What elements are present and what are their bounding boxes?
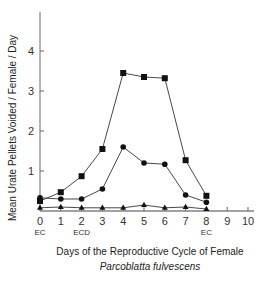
x-tick-label: 0 [37,215,43,227]
data-point-square [141,74,147,80]
x-axis-title: Days of the Reproductive Cycle of Female [56,246,244,257]
series-line-circles [40,147,206,202]
data-point-triangle [79,205,85,210]
data-point-circle [100,186,106,192]
data-point-circle [141,160,147,166]
y-axis-title: Mean Urate Pellets Voided / Female / Day [7,35,18,221]
data-point-square [162,75,168,81]
data-point-circle [162,161,168,167]
data-point-circle [204,199,210,205]
y-tick-label: 4 [28,45,34,57]
x-tick-label: 9 [224,215,230,227]
data-point-triangle [37,205,43,210]
data-point-triangle [58,204,64,209]
x-tick-label: 8 [203,215,209,227]
x-annotation: EC [34,228,45,237]
data-point-circle [183,192,189,198]
x-tick-label: 1 [58,215,64,227]
data-point-square [58,189,64,195]
y-tick-label: 2 [28,125,34,137]
data-point-square [183,157,189,163]
x-tick-label: 3 [99,215,105,227]
chart: 1234012345678910ECECDEC Mean Urate Pelle… [0,0,274,281]
x-tick-label: 5 [141,215,147,227]
data-point-circle [79,196,85,202]
series-layer [37,70,209,211]
y-tick-label: 3 [28,85,34,97]
x-tick-label: 10 [242,215,254,227]
x-annotation: ECD [73,228,90,237]
data-point-square [99,146,105,152]
x-tick-label: 6 [162,215,168,227]
data-point-triangle [99,205,105,210]
data-point-square [79,173,85,179]
data-point-circle [120,144,126,150]
data-point-square [120,70,126,76]
x-tick-label: 2 [79,215,85,227]
data-point-circle [37,195,43,201]
data-point-triangle [141,202,147,207]
y-tick-label: 1 [28,165,34,177]
series-line-squares [40,73,206,201]
x-tick-label: 7 [183,215,189,227]
axes: 1234012345678910ECECDEC [28,12,254,237]
x-annotation: EC [201,228,212,237]
data-point-square [203,193,209,199]
data-point-triangle [183,204,189,209]
species-label: Parcoblatta fulvescens [100,261,201,272]
x-tick-label: 4 [120,215,126,227]
data-point-circle [58,196,64,202]
